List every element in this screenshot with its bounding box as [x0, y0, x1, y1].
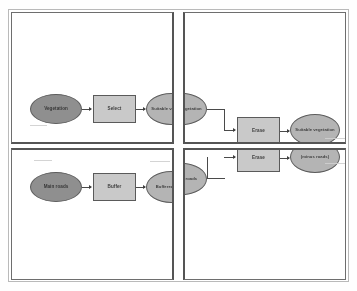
- panel-top-left[interactable]: Vegetation Select Suitable vegetation: [11, 12, 174, 144]
- connector-input-to-erase-vertical: [224, 109, 225, 131]
- scan-smudge: [34, 160, 52, 161]
- node-label: Erase: [250, 156, 267, 161]
- panel-bottom-left[interactable]: Main roads Buffer Buffered roads: [11, 148, 174, 280]
- connector-input-to-erase: [207, 109, 225, 110]
- node-vegetation-input[interactable]: Vegetation: [30, 94, 82, 124]
- panel-bottom-right[interactable]: Buffered roads Erase (minus roads): [183, 148, 346, 280]
- connector-input-to-erase: [207, 178, 225, 179]
- figure-canvas: Vegetation Select Suitable vegetation Su…: [0, 0, 357, 291]
- node-label: Buffered roads: [183, 177, 199, 181]
- node-main-roads-input[interactable]: Main roads: [30, 172, 82, 202]
- node-label: Vegetation: [42, 107, 70, 112]
- node-erase-process-2[interactable]: Erase: [237, 148, 280, 172]
- scan-smudge: [325, 163, 345, 164]
- node-suitable-vegetation-input[interactable]: Suitable vegetation: [183, 93, 207, 125]
- scan-smudge: [150, 161, 170, 162]
- scan-smudge: [30, 125, 47, 126]
- scan-smudge: [325, 138, 345, 139]
- node-minus-roads-output[interactable]: (minus roads): [290, 148, 340, 173]
- node-select-process[interactable]: Select: [93, 95, 136, 123]
- node-suitable-vegetation-output[interactable]: Suitable vegetation: [146, 93, 174, 125]
- node-label: Buffered roads: [154, 185, 174, 189]
- node-buffered-roads-output[interactable]: Buffered roads: [146, 171, 174, 203]
- connector-input-to-erase-vertical: [207, 157, 208, 179]
- node-buffered-roads-input[interactable]: Buffered roads: [183, 163, 207, 195]
- node-label: Suitable vegetation: [183, 107, 204, 111]
- panel-top-right[interactable]: Suitable vegetation Erase Suitable veget…: [183, 12, 346, 144]
- node-label: Buffer: [106, 185, 124, 190]
- node-suitable-vegetation-result[interactable]: Suitable vegetation: [290, 114, 340, 144]
- node-label: Suitable vegetation: [293, 128, 336, 132]
- node-label: Main roads: [42, 185, 71, 190]
- node-erase-process[interactable]: Erase: [237, 117, 280, 144]
- node-label: Select: [106, 107, 124, 112]
- connector-arrowhead: [89, 107, 92, 111]
- connector-arrowhead: [233, 155, 236, 159]
- connector-arrowhead: [89, 185, 92, 189]
- connector-arrowhead: [233, 128, 236, 132]
- node-label: Suitable vegetation: [149, 107, 174, 111]
- node-label: Erase: [250, 129, 267, 134]
- node-buffer-process[interactable]: Buffer: [93, 173, 136, 201]
- node-label: (minus roads): [299, 155, 331, 159]
